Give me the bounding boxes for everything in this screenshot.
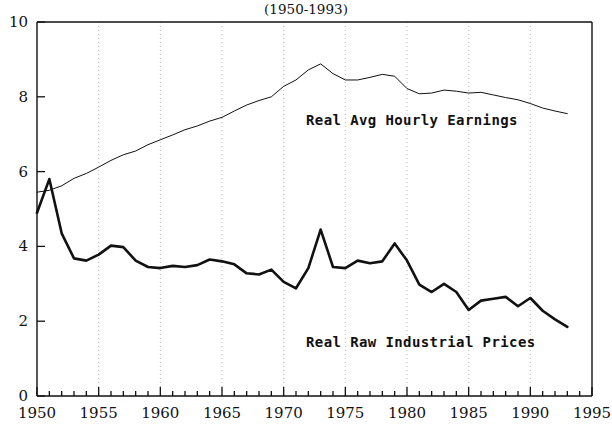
series-label-earnings: Real Avg Hourly Earnings [306,112,518,128]
chart-background [0,0,612,431]
x-tick-label: 1985 [450,404,488,422]
chart-container: (1950-1993) 1950195519601965197019751980… [0,0,612,431]
x-tick-label: 1990 [511,404,549,422]
x-tick-label: 1960 [141,404,179,422]
y-tick-label: 4 [18,237,28,255]
y-tick-label: 2 [18,312,28,330]
y-tick-label: 6 [18,163,28,181]
y-tick-label: 10 [9,13,28,31]
series-label-prices: Real Raw Industrial Prices [306,334,536,350]
line-chart: (1950-1993) 1950195519601965197019751980… [0,0,612,431]
x-tick-label: 1965 [203,404,241,422]
chart-title: (1950-1993) [264,1,348,17]
y-tick-label: 0 [18,387,28,405]
x-tick-label: 1975 [326,404,364,422]
x-tick-label: 1955 [80,404,118,422]
x-tick-label: 1995 [573,404,611,422]
y-tick-label: 8 [18,88,28,106]
x-tick-label: 1970 [265,404,303,422]
x-tick-label: 1980 [388,404,426,422]
x-tick-label: 1950 [18,404,56,422]
